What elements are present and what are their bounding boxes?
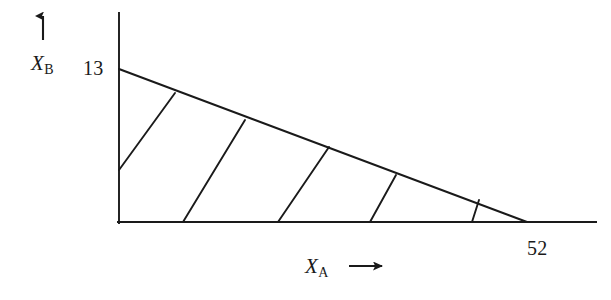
x-axis-label-base: X — [305, 254, 318, 278]
hatch-line-2 — [183, 120, 245, 222]
x-axis-label: XA — [305, 256, 328, 277]
y-axis-label-base: X — [31, 51, 44, 75]
y-axis-label: XB — [31, 53, 53, 74]
hatch-line-group — [119, 93, 479, 222]
y-intercept-value: 13 — [83, 58, 104, 78]
hatch-line-3 — [278, 147, 329, 222]
constraint-line — [119, 69, 527, 222]
hatch-line-1 — [119, 93, 175, 170]
x-intercept-value: 52 — [527, 238, 548, 258]
figure-canvas: XB 13 XA 52 — [0, 0, 611, 300]
hatch-line-4 — [370, 175, 396, 222]
x-axis-label-subscript: A — [318, 265, 328, 280]
y-axis-label-subscript: B — [44, 62, 54, 77]
